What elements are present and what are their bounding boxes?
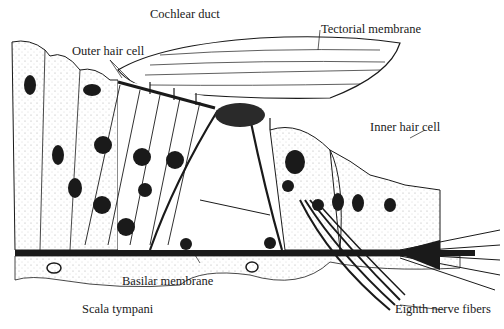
- label-eighth-nerve-fibers: Eighth nerve fibers: [395, 303, 491, 316]
- label-basilar-membrane: Basilar membrane: [122, 275, 213, 288]
- label-scala-tympani: Scala tympani: [82, 303, 153, 316]
- organ-of-corti-diagram: Cochlear duct Tectorial membrane Outer h…: [0, 0, 504, 329]
- inner-hair-cell-region: [270, 118, 341, 250]
- label-cochlear-duct: Cochlear duct: [150, 8, 220, 21]
- label-inner-hair-cell: Inner hair cell: [370, 121, 440, 134]
- label-tectorial-membrane: Tectorial membrane: [321, 23, 421, 36]
- label-outer-hair-cell: Outer hair cell: [72, 45, 144, 58]
